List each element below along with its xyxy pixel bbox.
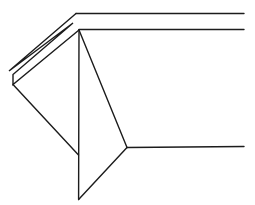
junction-to-bottom-line xyxy=(79,148,127,200)
apex-to-junction-line xyxy=(79,30,127,148)
junction-horizontal-line xyxy=(127,147,244,148)
triangle-bottom-edge xyxy=(13,85,79,156)
origami-diagram-canvas xyxy=(0,0,255,205)
origami-line-art xyxy=(0,0,255,205)
pleat-fold-outline xyxy=(9,14,79,85)
